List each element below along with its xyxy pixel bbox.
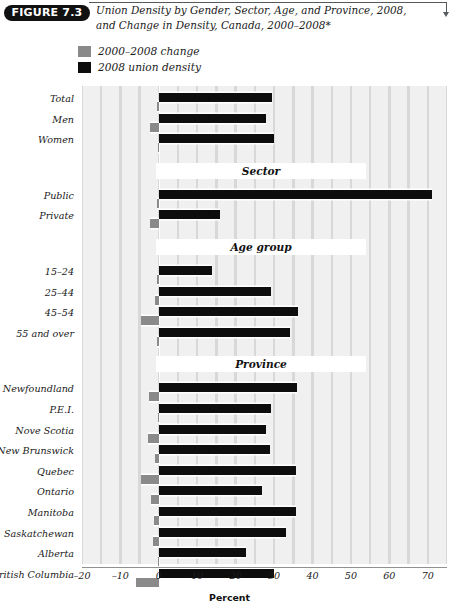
density-bar [159, 486, 262, 495]
axis-line [82, 567, 447, 568]
chart-row [82, 189, 447, 210]
change-bar [148, 434, 159, 443]
category-label: Private [0, 210, 74, 221]
chart-row [82, 92, 447, 113]
legend-label-change: 2000–2008 change [98, 45, 200, 57]
x-tick-label: 0 [139, 570, 179, 581]
category-label: 45–54 [0, 307, 74, 318]
density-bar [159, 445, 270, 454]
density-bar [159, 266, 212, 275]
density-bar [159, 287, 272, 296]
chart-row [82, 113, 447, 134]
category-label: Manitoba [0, 507, 74, 518]
x-axis-title: Percent [0, 592, 459, 603]
x-tick-label: 10 [177, 570, 217, 581]
chart-row [82, 424, 447, 445]
change-bar [155, 296, 159, 305]
section-heading-sector: Sector [156, 163, 366, 179]
category-label: Quebec [0, 466, 74, 477]
x-tick-label: 40 [293, 570, 333, 581]
x-tick-label: 60 [369, 570, 409, 581]
section-heading-label: Sector [242, 165, 280, 177]
category-label: Alberta [0, 548, 74, 559]
figure-title: Union Density by Gender, Sector, Age, an… [96, 3, 426, 32]
chart-row [82, 382, 447, 403]
section-heading-label: Age group [230, 241, 291, 253]
category-label: Nove Scotia [0, 425, 74, 436]
category-label: P.E.I. [0, 404, 74, 415]
x-tick-label: 20 [216, 570, 256, 581]
section-heading-label: Province [235, 358, 287, 370]
density-bar [159, 210, 220, 219]
density-bar [159, 425, 266, 434]
gray-swatch-icon [78, 46, 91, 57]
category-label: 55 and over [0, 328, 74, 339]
x-tick-label: 50 [331, 570, 371, 581]
density-bar [159, 528, 286, 537]
chart-row [82, 444, 447, 465]
change-bar [149, 392, 159, 401]
chart-legend: 2000–2008 change 2008 union density [78, 44, 201, 76]
category-label: 15–24 [0, 266, 74, 277]
density-bar [159, 134, 275, 143]
chart-row [82, 506, 447, 527]
section-heading-age-group: Age group [156, 239, 366, 255]
change-bar [141, 316, 159, 325]
density-bar [159, 548, 247, 557]
change-bar [141, 475, 159, 484]
density-bar [159, 190, 432, 199]
category-label: Men [0, 114, 74, 125]
change-bar [151, 495, 159, 504]
change-bar [157, 337, 159, 346]
figure-header: FIGURE 7.3 Union Density by Gender, Sect… [0, 0, 459, 86]
chart-row [82, 286, 447, 307]
plot-area: SectorAge groupProvince [82, 86, 447, 564]
chart-row [82, 403, 447, 424]
category-label: Saskatchewan [0, 528, 74, 539]
density-bar [159, 114, 267, 123]
category-labels: TotalMenWomenPublicPrivate15–2425–4445–5… [0, 86, 80, 564]
category-label: Ontario [0, 486, 74, 497]
density-bar [159, 466, 296, 475]
chart-row [82, 485, 447, 506]
chart-row [82, 527, 447, 548]
category-label: Newfoundland [0, 383, 74, 394]
change-bar [158, 143, 159, 152]
chart-row [82, 306, 447, 327]
figure-number-badge: FIGURE 7.3 [4, 5, 90, 21]
chart-rows: SectorAge groupProvince [82, 86, 447, 564]
category-label: Total [0, 93, 74, 104]
x-tick-label: –10 [100, 570, 140, 581]
x-tick-label: –20 [62, 570, 102, 581]
legend-item-change: 2000–2008 change [78, 44, 201, 58]
x-tick-label: 70 [408, 570, 448, 581]
category-label: Women [0, 134, 74, 145]
density-bar [159, 307, 298, 316]
density-bar [159, 93, 272, 102]
category-label: Public [0, 190, 74, 201]
change-bar [157, 275, 159, 284]
change-bar [157, 102, 159, 111]
black-swatch-icon [78, 62, 91, 73]
density-bar [159, 383, 297, 392]
density-bar [159, 328, 290, 337]
density-bar [159, 404, 271, 413]
change-bar [157, 199, 159, 208]
x-axis: –20–10010203040506070 [0, 564, 459, 594]
change-bar [158, 413, 159, 422]
change-bar [155, 454, 159, 463]
category-label: 25–44 [0, 287, 74, 298]
category-label: New Brunswick [0, 445, 74, 456]
legend-item-density: 2008 union density [78, 60, 201, 74]
header-arrow-icon [443, 12, 449, 17]
change-bar [154, 516, 159, 525]
density-bar [159, 507, 297, 516]
change-bar [150, 219, 158, 228]
x-tick-label: 30 [254, 570, 294, 581]
chart-row [82, 465, 447, 486]
legend-label-density: 2008 union density [98, 61, 201, 73]
change-bar [153, 537, 158, 546]
chart-row [82, 265, 447, 286]
chart-row [82, 327, 447, 348]
chart-row [82, 133, 447, 154]
